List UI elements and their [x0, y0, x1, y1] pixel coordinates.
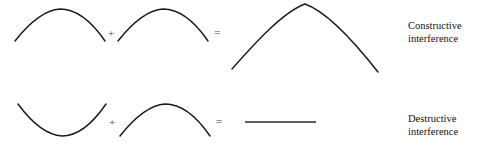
equals-operator-bottom: = — [216, 115, 222, 127]
constructive-caption: Constructive interference — [408, 20, 462, 45]
constructive-caption-line1: Constructive — [408, 20, 462, 33]
constructive-row: + = — [15, 4, 378, 72]
constructive-result-wave — [232, 4, 378, 72]
destructive-caption-line2: interference — [408, 126, 458, 139]
destructive-caption-line1: Destructive — [408, 113, 458, 126]
constructive-caption-line2: interference — [408, 33, 462, 46]
trough-wave-1 — [18, 104, 106, 136]
crest-wave-2 — [118, 9, 208, 41]
destructive-caption: Destructive interference — [408, 113, 458, 138]
plus-operator-top: + — [108, 27, 114, 39]
plus-operator-bottom: + — [109, 116, 115, 128]
crest-wave-1 — [15, 9, 105, 41]
destructive-row: + = — [18, 104, 316, 136]
crest-wave-3 — [120, 104, 210, 136]
equals-operator-top: = — [214, 26, 220, 38]
